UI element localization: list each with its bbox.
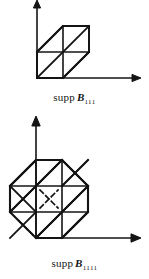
diagonal-upper-left: [37, 26, 63, 52]
caption-prefix: supp: [53, 91, 75, 103]
figure-supp-b111: suppB111: [0, 0, 149, 112]
diag-cell-x3: [36, 212, 62, 238]
support-region-top: [37, 26, 89, 78]
diagonal-lower-right: [63, 52, 89, 78]
caption-subscript: 1111: [83, 264, 98, 272]
supp-b1111-diagram: [0, 112, 149, 255]
x-axis-arrowhead-icon: [131, 234, 141, 242]
caption-symbol: B: [73, 257, 83, 269]
caption-subscript: 111: [84, 98, 95, 106]
y-axis-arrowhead-icon: [32, 116, 40, 126]
dash-top-left: [19, 163, 33, 177]
x-axis-arrowhead-icon: [132, 74, 141, 81]
supp-b111-diagram: [0, 0, 149, 90]
y-axis-arrowhead-icon: [33, 0, 40, 8]
dash-bottom-right: [65, 221, 79, 235]
axes-group-bottom: [32, 116, 141, 242]
diag-cell-x2: [62, 186, 88, 212]
caption-supp-b111: suppB111: [0, 91, 149, 106]
caption-supp-b1111: suppB1111: [0, 257, 149, 272]
caption-prefix: supp: [52, 257, 74, 269]
support-region-bottom: [10, 160, 88, 238]
diag-cell-x1: [36, 160, 62, 186]
figure-supp-b1111: suppB1111: [0, 112, 149, 279]
